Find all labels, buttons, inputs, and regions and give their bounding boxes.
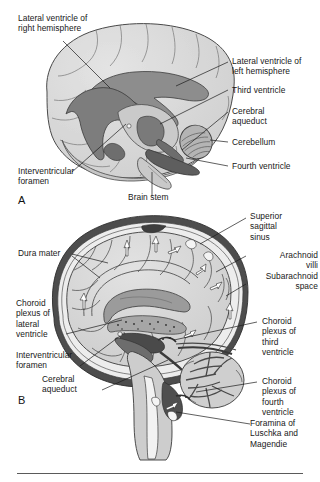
label-subarachnoid-space: Subarachnoid space [236,271,318,292]
label-cerebellum-a: Cerebellum [232,137,320,147]
label-third-ventricle: Third ventricle [232,85,320,95]
label-lateral-ventricle-right-hemisphere: Lateral ventricle of right hemisphere [18,13,138,34]
label-fourth-ventricle-a: Fourth ventricle [232,161,320,171]
bottom-divider [17,473,303,474]
label-lateral-ventricle-left-hemisphere: Lateral ventricle of left hemisphere [232,56,320,77]
label-interventricular-foramen-a: Interventricular foramen [18,166,128,187]
label-brain-stem: Brain stem [128,192,208,202]
label-superior-sagittal-sinus: Superior sagittal sinus [250,211,320,242]
interventricular-foramen-midsag [118,332,122,336]
label-dura-mater: Dura mater [18,248,88,258]
label-interventricular-foramen-b: Interventricular foramen [16,350,106,371]
label-choroid-plexus-fourth-ventricle: Choroid plexus of fourth ventricle [262,376,320,418]
label-choroid-plexus-lateral-ventricle: Choroid plexus of lateral ventricle [16,298,78,340]
panel-a-illustration [47,24,235,190]
label-arachnoid-villi: Arachnoid villi [240,250,318,271]
label-choroid-plexus-third-ventricle: Choroid plexus of third ventricle [262,316,320,358]
panel-letter-b: B [18,394,26,406]
label-foramina-luschka-magendie: Foramina of Luschka and Magendie [250,418,320,449]
interventricular-foramen-3d [127,124,131,128]
label-cerebral-aqueduct-a: Cerebral aqueduct [232,106,320,127]
panel-letter-a: A [18,194,26,206]
label-cerebral-aqueduct-b: Cerebral aqueduct [42,374,104,395]
